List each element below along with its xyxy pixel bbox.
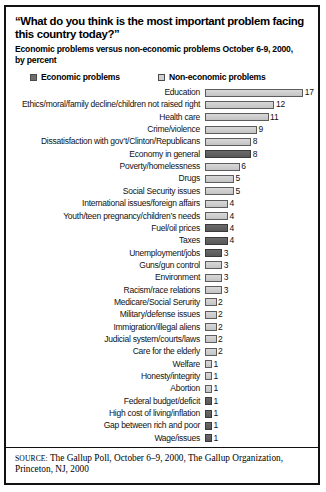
chart-row: Unemployment/jobs3 bbox=[6, 247, 318, 259]
chart-bar-area: 1 bbox=[205, 434, 318, 443]
chart-bar-area: 1 bbox=[205, 421, 318, 430]
chart-bar-area: 12 bbox=[205, 100, 318, 109]
chart-row-label: Abortion bbox=[6, 384, 205, 393]
chart-row-label: Taxes bbox=[6, 236, 205, 245]
chart-bar bbox=[205, 200, 228, 208]
chart-row: Crime/violence9 bbox=[6, 123, 318, 135]
chart-row-label: Judicial system/courts/laws bbox=[6, 335, 205, 344]
chart-bar bbox=[205, 335, 217, 343]
chart-bar-value: 8 bbox=[253, 137, 258, 146]
chart-bar-value: 5 bbox=[235, 187, 240, 196]
chart-bar-area: 3 bbox=[205, 273, 318, 282]
chart-row: Environment3 bbox=[6, 272, 318, 284]
chart-row: Drugs5 bbox=[6, 173, 318, 185]
chart-bar-value: 17 bbox=[305, 88, 314, 97]
legend-swatch-economic-icon bbox=[30, 74, 37, 81]
chart-row: Military/defense issues2 bbox=[6, 309, 318, 321]
chart-row-label: Poverty/homelessness bbox=[6, 162, 205, 171]
source-label: SOURCE: bbox=[15, 454, 48, 463]
chart-bar-value: 4 bbox=[230, 236, 235, 245]
chart-bar-area: 6 bbox=[205, 162, 318, 171]
source-text-line-2: Princeton, NJ, 2000 bbox=[15, 464, 89, 474]
chart-bar-area: 1 bbox=[205, 360, 318, 369]
chart-bar-value: 8 bbox=[253, 150, 258, 159]
chart-bar-area: 2 bbox=[205, 298, 318, 307]
chart-row: High cost of living/inflation1 bbox=[6, 407, 318, 419]
chart-row-label: Fuel/oil prices bbox=[6, 224, 205, 233]
chart-bar-value: 3 bbox=[224, 249, 229, 258]
chart-bar-value: 1 bbox=[214, 360, 219, 369]
chart-figure: “What do you think is the most important… bbox=[4, 5, 320, 485]
chart-bar bbox=[205, 372, 212, 380]
chart-row-label: Care for the elderly bbox=[6, 347, 205, 356]
chart-row-label: Military/defense issues bbox=[6, 310, 205, 319]
legend-label-noneconomic: Non-economic problems bbox=[169, 72, 266, 82]
chart-row: Health care11 bbox=[6, 111, 318, 123]
chart-row-label: Federal budget/deficit bbox=[6, 397, 205, 406]
chart-bar bbox=[205, 286, 222, 294]
chart-bar-area: 3 bbox=[205, 261, 318, 270]
chart-row-label: Dissatisfaction with gov’t/Clinton/Repub… bbox=[6, 137, 205, 146]
chart-row: Economy in general8 bbox=[6, 148, 318, 160]
chart-bar bbox=[205, 126, 257, 134]
chart-bar bbox=[205, 224, 228, 232]
chart-legend: Economic problems Non-economic problems bbox=[6, 72, 318, 82]
chart-bar-value: 1 bbox=[214, 421, 219, 430]
legend-label-economic: Economic problems bbox=[41, 72, 120, 82]
chart-row: Honesty/integrity1 bbox=[6, 370, 318, 382]
chart-row-label: Wage/issues bbox=[6, 434, 205, 443]
chart-bar-area: 4 bbox=[205, 224, 318, 233]
chart-bar bbox=[205, 385, 212, 393]
chart-row-label: Education bbox=[6, 88, 205, 97]
chart-row-label: Environment bbox=[6, 273, 205, 282]
legend-item-noneconomic: Non-economic problems bbox=[158, 72, 266, 82]
chart-row-label: Drugs bbox=[6, 174, 205, 183]
chart-bar bbox=[205, 397, 212, 405]
chart-row: Medicare/Social Serurity2 bbox=[6, 296, 318, 308]
chart-bar bbox=[205, 89, 303, 97]
chart-row: Guns/gun control3 bbox=[6, 259, 318, 271]
chart-row-label: Honesty/integrity bbox=[6, 372, 205, 381]
chart-bar-value: 1 bbox=[214, 434, 219, 443]
chart-row-label: Unemployment/jobs bbox=[6, 249, 205, 258]
chart-bar-area: 3 bbox=[205, 286, 318, 295]
chart-bar-area: 17 bbox=[205, 88, 318, 97]
chart-row: Judicial system/courts/laws2 bbox=[6, 333, 318, 345]
chart-row-label: Gap between rich and poor bbox=[6, 421, 205, 430]
chart-bar bbox=[205, 311, 217, 319]
chart-bar-value: 2 bbox=[218, 347, 223, 356]
chart-bar-value: 4 bbox=[230, 212, 235, 221]
chart-source-note: SOURCE: The Gallup Poll, October 6–9, 20… bbox=[6, 447, 318, 483]
chart-row: Racism/race relations3 bbox=[6, 284, 318, 296]
chart-bar bbox=[205, 274, 222, 282]
chart-bar-value: 6 bbox=[241, 162, 246, 171]
chart-bar-value: 1 bbox=[214, 397, 219, 406]
chart-bar-area: 3 bbox=[205, 249, 318, 258]
chart-bar bbox=[205, 150, 251, 158]
chart-row-label: Welfare bbox=[6, 360, 205, 369]
source-text-line-1: The Gallup Poll, October 6–9, 2000, The … bbox=[48, 453, 283, 463]
chart-bar-area: 5 bbox=[205, 187, 318, 196]
chart-row: Poverty/homelessness6 bbox=[6, 160, 318, 172]
chart-bar-area: 1 bbox=[205, 397, 318, 406]
chart-subtitle-line-2: by percent bbox=[15, 55, 309, 66]
chart-row-label: Social Security issues bbox=[6, 187, 205, 196]
chart-bar-value: 3 bbox=[224, 286, 229, 295]
legend-swatch-noneconomic-icon bbox=[158, 74, 165, 81]
chart-bar-area: 5 bbox=[205, 174, 318, 183]
chart-bar-area: 8 bbox=[205, 137, 318, 146]
chart-bar-area: 2 bbox=[205, 310, 318, 319]
chart-row: Gap between rich and poor1 bbox=[6, 420, 318, 432]
chart-bar-value: 1 bbox=[214, 384, 219, 393]
chart-bar bbox=[205, 187, 234, 195]
chart-bar bbox=[205, 298, 217, 306]
chart-row: Immigration/illegal aliens2 bbox=[6, 321, 318, 333]
chart-bar bbox=[205, 138, 251, 146]
chart-row: Social Security issues5 bbox=[6, 185, 318, 197]
chart-title: “What do you think is the most important… bbox=[15, 15, 309, 42]
chart-bar-area: 1 bbox=[205, 372, 318, 381]
chart-row: Taxes4 bbox=[6, 235, 318, 247]
chart-bar bbox=[205, 212, 228, 220]
chart-row-label: International issues/foreign affairs bbox=[6, 199, 205, 208]
chart-bar bbox=[205, 434, 212, 442]
